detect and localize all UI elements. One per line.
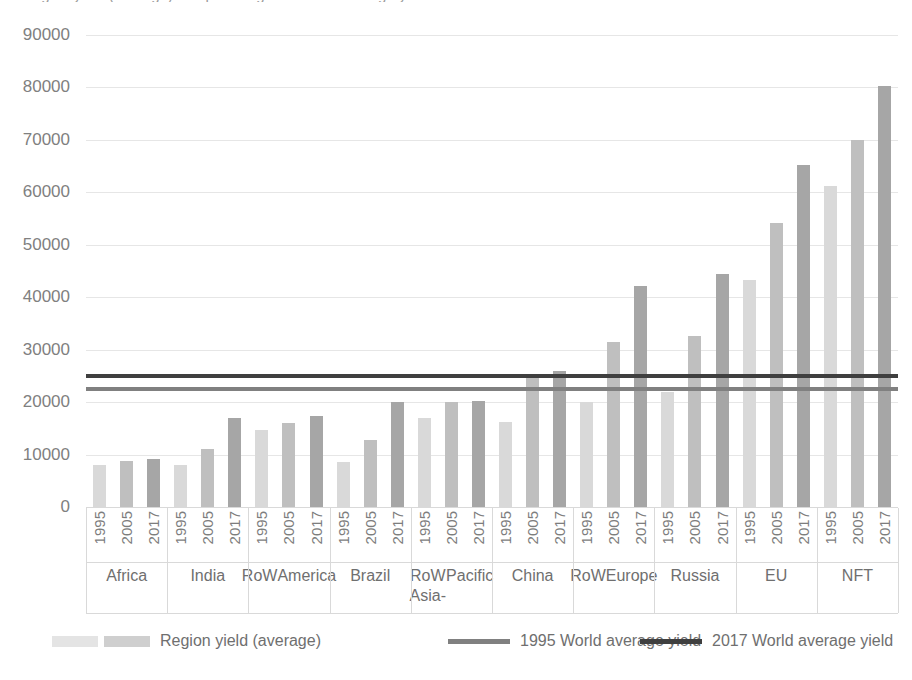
x-axis-year-label: 2017 — [627, 508, 654, 565]
y-axis-tick-label: 20000 — [23, 392, 70, 412]
group-separator — [736, 561, 737, 613]
x-axis-year-label: 1995 — [86, 508, 113, 565]
bar[interactable] — [282, 423, 295, 507]
y-axis-labels: 0100002000030000400005000060000700008000… — [0, 35, 78, 507]
x-axis-year-label: 2005 — [600, 508, 627, 565]
x-axis-year-label: 1995 — [654, 508, 681, 565]
year-text: 1995 — [172, 511, 189, 544]
year-text: 1995 — [253, 511, 270, 544]
group-separator — [817, 508, 818, 562]
group-label-line: RoW — [570, 566, 606, 586]
bar[interactable] — [607, 342, 620, 507]
bar[interactable] — [878, 86, 891, 507]
group-label-line: America — [277, 566, 336, 586]
bar[interactable] — [93, 465, 106, 507]
bar[interactable] — [364, 440, 377, 507]
bar[interactable] — [797, 165, 810, 507]
group-separator — [492, 561, 493, 613]
group-separator — [330, 561, 331, 613]
group-separator — [411, 508, 412, 562]
bar[interactable] — [310, 416, 323, 507]
bar-group — [330, 35, 411, 507]
bar[interactable] — [661, 392, 674, 507]
group-label-line: NFT — [842, 566, 873, 586]
bar[interactable] — [472, 401, 485, 507]
year-text: 2017 — [470, 511, 487, 544]
legend-label: 2017 World average yield — [712, 632, 893, 650]
x-axis-year-label: 1995 — [248, 508, 275, 565]
x-axis-year-label: 2017 — [221, 508, 248, 565]
year-text: 2005 — [768, 511, 785, 544]
group-separator — [86, 508, 87, 562]
group-separator — [492, 508, 493, 562]
year-text: 1995 — [741, 511, 758, 544]
x-axis-year-label: 1995 — [167, 508, 194, 565]
bar[interactable] — [824, 186, 837, 507]
bar[interactable] — [391, 402, 404, 507]
year-text: 2017 — [632, 511, 649, 544]
group-separator — [330, 508, 331, 562]
bar[interactable] — [851, 140, 864, 507]
x-axis-year-label: 2017 — [790, 508, 817, 565]
year-text: 2017 — [226, 511, 243, 544]
year-text: 1995 — [578, 511, 595, 544]
bar[interactable] — [147, 459, 160, 507]
group-separator — [736, 508, 737, 562]
bar[interactable] — [445, 402, 458, 507]
year-text: 1995 — [497, 511, 514, 544]
group-separator — [654, 561, 655, 613]
x-axis-group-label: Russia — [654, 561, 735, 618]
legend-swatch-light — [52, 636, 98, 647]
bar[interactable] — [634, 286, 647, 507]
bar[interactable] — [201, 449, 214, 507]
bar[interactable] — [770, 223, 783, 507]
x-axis-group-label: EU — [736, 561, 817, 618]
x-axis-year-label: 2005 — [763, 508, 790, 565]
bar[interactable] — [337, 462, 350, 507]
x-axis-year-label: 2005 — [357, 508, 384, 565]
chart-legend: Region yield (average)1995 World average… — [0, 626, 912, 656]
group-label-line: Russia — [671, 566, 720, 586]
x-axis-year-label: 2017 — [709, 508, 736, 565]
bar[interactable] — [688, 336, 701, 507]
x-axis-year-label: 2005 — [681, 508, 708, 565]
y-axis-tick-label: 10000 — [23, 445, 70, 465]
group-separator — [573, 561, 574, 613]
year-text: 2005 — [362, 511, 379, 544]
year-text: 2005 — [280, 511, 297, 544]
bar[interactable] — [553, 371, 566, 507]
y-axis-tick-label: 40000 — [23, 287, 70, 307]
x-axis-year-label: 2017 — [140, 508, 167, 565]
bar[interactable] — [526, 376, 539, 507]
group-label-line: Brazil — [350, 566, 390, 586]
bar[interactable] — [499, 422, 512, 507]
bar[interactable] — [120, 461, 133, 507]
bar-group — [573, 35, 654, 507]
x-axis-year-label: 1995 — [330, 508, 357, 565]
bar[interactable] — [255, 430, 268, 507]
legend-item[interactable]: Region yield (average) — [52, 632, 321, 650]
y-axis-tick-label: 90000 — [23, 25, 70, 45]
year-text: 2017 — [389, 511, 406, 544]
x-axis-year-label: 2005 — [113, 508, 140, 565]
group-label-line: Pacific — [446, 566, 493, 586]
legend-item[interactable]: 2017 World average yield — [640, 632, 893, 650]
legend-line-swatch — [448, 639, 510, 644]
group-separator — [248, 508, 249, 562]
x-axis-year-label: 1995 — [817, 508, 844, 565]
x-axis-year-label: 2005 — [844, 508, 871, 565]
bar[interactable] — [418, 418, 431, 507]
bar[interactable] — [228, 418, 241, 507]
bars-layer — [86, 35, 898, 507]
group-separator — [898, 561, 899, 613]
group-separator — [654, 508, 655, 562]
x-axis-year-label: 2005 — [194, 508, 221, 565]
bar-group — [167, 35, 248, 507]
x-axis-group-label: RoWEurope — [573, 561, 654, 618]
bar[interactable] — [580, 402, 593, 507]
group-separator — [167, 508, 168, 562]
bar[interactable] — [174, 465, 187, 507]
x-axis-group-label: China — [492, 561, 573, 618]
x-axis-group-label: Brazil — [330, 561, 411, 618]
bar[interactable] — [743, 280, 756, 507]
